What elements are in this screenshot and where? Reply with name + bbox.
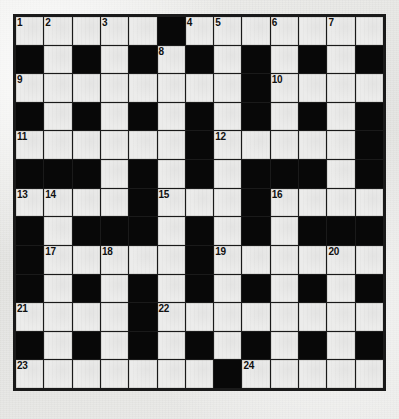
crossword-cell[interactable] bbox=[327, 303, 354, 331]
crossword-cell[interactable] bbox=[356, 246, 383, 274]
crossword-cell[interactable] bbox=[356, 360, 383, 388]
crossword-cell[interactable] bbox=[214, 332, 241, 360]
crossword-cell[interactable] bbox=[73, 189, 100, 217]
crossword-cell[interactable] bbox=[299, 360, 326, 388]
crossword-cell[interactable] bbox=[44, 217, 71, 245]
crossword-cell[interactable] bbox=[44, 103, 71, 131]
crossword-cell[interactable] bbox=[214, 103, 241, 131]
crossword-cell[interactable] bbox=[214, 46, 241, 74]
crossword-cell[interactable] bbox=[356, 74, 383, 102]
crossword-cell[interactable]: 11 bbox=[16, 131, 43, 159]
crossword-cell[interactable] bbox=[214, 275, 241, 303]
crossword-cell[interactable]: 21 bbox=[16, 303, 43, 331]
crossword-cell[interactable] bbox=[271, 217, 298, 245]
crossword-cell[interactable]: 13 bbox=[16, 189, 43, 217]
crossword-cell[interactable] bbox=[327, 275, 354, 303]
crossword-cell[interactable] bbox=[158, 246, 185, 274]
crossword-cell[interactable] bbox=[101, 189, 128, 217]
crossword-cell[interactable] bbox=[73, 360, 100, 388]
crossword-cell[interactable] bbox=[327, 103, 354, 131]
crossword-grid[interactable]: 123456789101112131415161718192021222324 bbox=[13, 14, 386, 391]
crossword-cell[interactable] bbox=[101, 360, 128, 388]
crossword-cell[interactable] bbox=[214, 217, 241, 245]
crossword-cell[interactable] bbox=[158, 275, 185, 303]
crossword-cell[interactable] bbox=[327, 160, 354, 188]
crossword-cell[interactable] bbox=[44, 46, 71, 74]
crossword-cell[interactable] bbox=[186, 360, 213, 388]
crossword-cell[interactable] bbox=[327, 74, 354, 102]
crossword-cell[interactable] bbox=[327, 46, 354, 74]
crossword-cell[interactable]: 8 bbox=[158, 46, 185, 74]
crossword-cell[interactable]: 1 bbox=[16, 17, 43, 45]
crossword-cell[interactable] bbox=[101, 103, 128, 131]
crossword-cell[interactable] bbox=[101, 275, 128, 303]
crossword-cell[interactable] bbox=[242, 303, 269, 331]
crossword-cell[interactable] bbox=[158, 160, 185, 188]
crossword-cell[interactable]: 19 bbox=[214, 246, 241, 274]
crossword-cell[interactable]: 7 bbox=[327, 17, 354, 45]
crossword-cell[interactable] bbox=[214, 303, 241, 331]
crossword-cell[interactable]: 4 bbox=[186, 17, 213, 45]
crossword-cell[interactable] bbox=[214, 160, 241, 188]
crossword-cell[interactable] bbox=[299, 246, 326, 274]
crossword-cell[interactable] bbox=[242, 17, 269, 45]
crossword-cell[interactable] bbox=[271, 46, 298, 74]
crossword-cell[interactable] bbox=[356, 17, 383, 45]
crossword-cell[interactable] bbox=[271, 103, 298, 131]
crossword-cell[interactable] bbox=[158, 360, 185, 388]
crossword-cell[interactable]: 24 bbox=[242, 360, 269, 388]
crossword-cell[interactable] bbox=[186, 303, 213, 331]
crossword-cell[interactable]: 12 bbox=[214, 131, 241, 159]
crossword-cell[interactable]: 2 bbox=[44, 17, 71, 45]
crossword-cell[interactable] bbox=[242, 246, 269, 274]
crossword-cell[interactable] bbox=[327, 131, 354, 159]
crossword-cell[interactable] bbox=[73, 303, 100, 331]
crossword-cell[interactable] bbox=[129, 131, 156, 159]
crossword-cell[interactable]: 9 bbox=[16, 74, 43, 102]
crossword-cell[interactable] bbox=[186, 189, 213, 217]
crossword-cell[interactable] bbox=[44, 275, 71, 303]
crossword-cell[interactable] bbox=[271, 131, 298, 159]
crossword-cell[interactable]: 6 bbox=[271, 17, 298, 45]
crossword-cell[interactable]: 18 bbox=[101, 246, 128, 274]
crossword-cell[interactable] bbox=[327, 189, 354, 217]
crossword-cell[interactable] bbox=[299, 189, 326, 217]
crossword-cell[interactable] bbox=[158, 74, 185, 102]
crossword-cell[interactable] bbox=[44, 74, 71, 102]
crossword-cell[interactable] bbox=[356, 189, 383, 217]
crossword-cell[interactable] bbox=[271, 303, 298, 331]
crossword-cell[interactable] bbox=[73, 74, 100, 102]
crossword-cell[interactable] bbox=[129, 74, 156, 102]
crossword-cell[interactable] bbox=[101, 332, 128, 360]
crossword-cell[interactable] bbox=[73, 131, 100, 159]
crossword-cell[interactable]: 16 bbox=[271, 189, 298, 217]
crossword-cell[interactable] bbox=[214, 74, 241, 102]
crossword-cell[interactable] bbox=[271, 360, 298, 388]
crossword-cell[interactable]: 15 bbox=[158, 189, 185, 217]
crossword-cell[interactable]: 3 bbox=[101, 17, 128, 45]
crossword-cell[interactable] bbox=[44, 303, 71, 331]
crossword-cell[interactable] bbox=[44, 131, 71, 159]
crossword-cell[interactable]: 17 bbox=[44, 246, 71, 274]
crossword-cell[interactable] bbox=[101, 131, 128, 159]
crossword-cell[interactable] bbox=[186, 74, 213, 102]
crossword-cell[interactable] bbox=[356, 303, 383, 331]
crossword-cell[interactable] bbox=[44, 360, 71, 388]
crossword-cell[interactable]: 23 bbox=[16, 360, 43, 388]
crossword-cell[interactable] bbox=[101, 74, 128, 102]
crossword-cell[interactable] bbox=[158, 332, 185, 360]
crossword-cell[interactable]: 5 bbox=[214, 17, 241, 45]
crossword-cell[interactable] bbox=[299, 131, 326, 159]
crossword-cell[interactable]: 22 bbox=[158, 303, 185, 331]
crossword-cell[interactable] bbox=[73, 246, 100, 274]
crossword-cell[interactable] bbox=[129, 17, 156, 45]
crossword-cell[interactable] bbox=[271, 275, 298, 303]
crossword-cell[interactable] bbox=[271, 332, 298, 360]
crossword-cell[interactable] bbox=[129, 360, 156, 388]
crossword-cell[interactable] bbox=[299, 303, 326, 331]
crossword-cell[interactable] bbox=[299, 74, 326, 102]
crossword-cell[interactable] bbox=[158, 217, 185, 245]
crossword-cell[interactable] bbox=[73, 17, 100, 45]
crossword-cell[interactable] bbox=[299, 17, 326, 45]
crossword-cell[interactable] bbox=[129, 246, 156, 274]
